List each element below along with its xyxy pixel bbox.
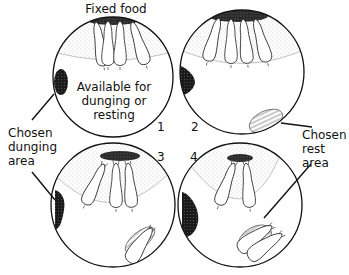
stage-2-number: 2 xyxy=(191,120,199,134)
chosen-rest-area-label: Chosen rest area xyxy=(302,128,347,170)
rest-pointer-line-top xyxy=(281,123,312,127)
stage-4-number: 4 xyxy=(190,150,198,164)
available-area-label: Available for dunging or resting xyxy=(74,80,154,122)
fixed-food-label: Fixed food xyxy=(80,2,152,16)
stage-1-number: 1 xyxy=(157,120,165,134)
dunging-pointer-line-top xyxy=(32,94,54,120)
stage-3-number: 3 xyxy=(157,150,165,164)
chosen-dunging-area-label: Chosen dunging area xyxy=(8,126,57,168)
stage-2-pen xyxy=(170,5,314,138)
dunging-pointer-line-bottom xyxy=(32,172,55,200)
